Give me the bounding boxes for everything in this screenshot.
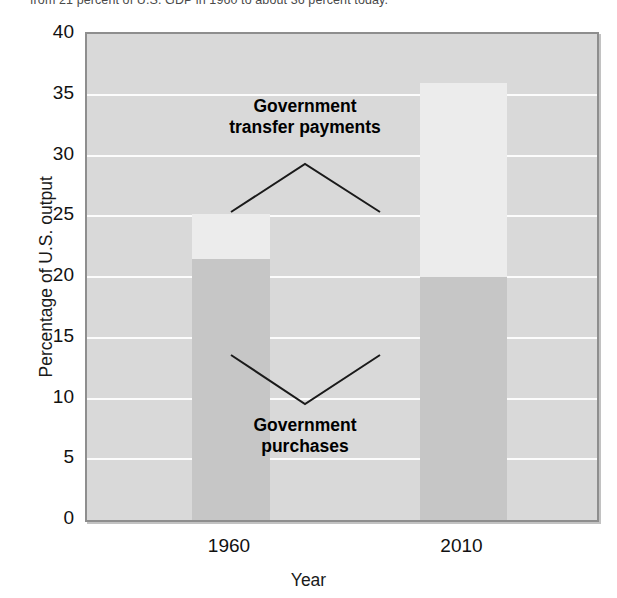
x-tick-label-2010: 2010 [402, 536, 522, 555]
purchases-label-line2: purchases [185, 436, 425, 457]
transfer-payments-label-line2: transfer payments [175, 117, 435, 138]
purchases-label-line1: Government [185, 415, 425, 436]
y-axis-title: Percentage of U.S. output [38, 137, 56, 417]
x-axis-tick-labels: 19602010 [0, 0, 617, 598]
purchases-label: Government purchases [185, 415, 425, 458]
x-axis-title: Year [0, 572, 617, 590]
x-tick-label-1960: 1960 [169, 536, 289, 555]
transfer-payments-label: Government transfer payments [175, 96, 435, 139]
transfer-payments-label-line1: Government [175, 96, 435, 117]
figure-container: from 21 percent of U.S. GDP in 1960 to a… [0, 0, 617, 598]
